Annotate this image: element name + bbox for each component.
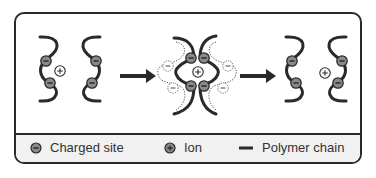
- polymer-chain-right: [83, 37, 100, 101]
- plus-circle-icon: [164, 142, 176, 154]
- dissociated-site-icon: [163, 61, 173, 71]
- charged-site-icon: [333, 78, 343, 88]
- legend-item-charged-site: Charged site: [30, 140, 124, 155]
- dissociated-site-icon: [168, 83, 178, 93]
- ion-icon: [55, 66, 65, 76]
- stage-complex: [158, 36, 237, 114]
- charged-site-icon: [291, 78, 301, 88]
- charged-site-icon: [45, 78, 55, 88]
- charged-site-icon: [199, 53, 209, 63]
- stage-after: [286, 37, 347, 101]
- charged-site-icon: [41, 56, 51, 66]
- ion-icon: [193, 67, 203, 77]
- legend-item-ion: Ion: [164, 140, 202, 155]
- minus-circle-icon: [30, 142, 42, 154]
- legend: Charged site Ion Polymer chain: [16, 133, 360, 162]
- dissociated-site-icon: [218, 83, 228, 93]
- legend-label: Ion: [184, 140, 202, 155]
- arrow-right-icon: [240, 69, 276, 83]
- legend-item-polymer-chain: Polymer chain: [238, 140, 344, 155]
- line-icon: [238, 142, 254, 154]
- legend-label: Polymer chain: [262, 140, 344, 155]
- polymer-chain-left: [174, 38, 194, 114]
- polymer-chain-left: [40, 37, 57, 101]
- diagram-frame: Charged site Ion Polymer chain: [14, 12, 362, 164]
- legend-label: Charged site: [50, 140, 124, 155]
- charged-site-icon: [287, 56, 297, 66]
- charged-site-icon: [91, 56, 101, 66]
- polymer-chain-right: [329, 37, 346, 101]
- stage-before: [40, 37, 101, 101]
- arrow-right-icon: [120, 69, 156, 83]
- charged-site-icon: [87, 78, 97, 88]
- dissociated-site-icon: [223, 61, 233, 71]
- ion-icon: [320, 68, 330, 78]
- charged-site-icon: [186, 53, 196, 63]
- charged-site-icon: [337, 56, 347, 66]
- ion-transport-diagram: [16, 14, 360, 134]
- polymer-chain-left: [286, 37, 303, 101]
- charged-site-icon: [186, 81, 196, 91]
- charged-site-icon: [199, 81, 209, 91]
